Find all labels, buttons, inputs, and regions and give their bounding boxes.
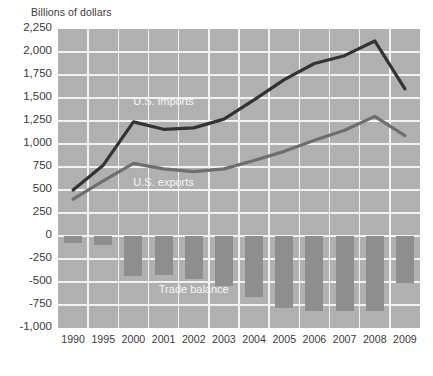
x-tick-label-2008: 2008 [363, 333, 387, 345]
y-tick-label--750: -750 [29, 297, 52, 309]
x-tick-label-2000: 2000 [122, 333, 146, 345]
y-axis-tick-labels: 2,2502,0001,7501,5001,2501,0007505002500… [0, 0, 52, 376]
y-tick-label-1000: 1,000 [23, 136, 52, 148]
y-tick-label-2250: 2,250 [23, 21, 52, 33]
x-tick-label-2004: 2004 [242, 333, 266, 345]
x-tick-label-2001: 2001 [152, 333, 176, 345]
y-tick-label-250: 250 [33, 205, 52, 217]
x-tick-label-2005: 2005 [272, 333, 296, 345]
chart-figure: Billions of dollars 2,2502,0001,7501,500… [0, 0, 433, 376]
x-tick-label-2002: 2002 [182, 333, 206, 345]
y-tick-label--1000: -1,000 [19, 320, 52, 332]
y-tick-label-750: 750 [33, 159, 52, 171]
y-tick-label-500: 500 [33, 182, 52, 194]
x-tick-label-2006: 2006 [303, 333, 327, 345]
y-tick-label-0: 0 [46, 228, 52, 240]
annotation-u-s-exports: U.S. exports [133, 176, 194, 188]
y-tick-label-1750: 1,750 [23, 67, 52, 79]
x-axis-tick-labels: 1990199520002001200220032004200520062007… [58, 333, 420, 353]
annotation-u-s-imports: U.S. imports [133, 95, 194, 107]
y-tick-label-1250: 1,250 [23, 113, 52, 125]
x-tick-label-1995: 1995 [91, 333, 115, 345]
y-tick-label--250: -250 [29, 251, 52, 263]
line-series-layer [58, 29, 420, 328]
x-tick-label-2007: 2007 [333, 333, 357, 345]
annotation-trade-balance: Trade balance [159, 283, 229, 295]
y-tick-label-1500: 1,500 [23, 90, 52, 102]
y-tick-label-2000: 2,000 [23, 44, 52, 56]
x-tick-label-1990: 1990 [61, 333, 85, 345]
x-tick-label-2009: 2009 [393, 333, 417, 345]
y-tick-label--500: -500 [29, 274, 52, 286]
x-tick-label-2003: 2003 [212, 333, 236, 345]
exports-line [73, 116, 405, 199]
plot-area: U.S. importsU.S. exportsTrade balance [58, 29, 420, 328]
